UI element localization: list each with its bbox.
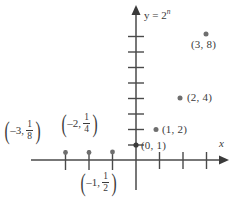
denominator: 2: [102, 184, 109, 194]
data-point-neg3: [63, 150, 68, 155]
numerator: 1: [26, 120, 33, 130]
fraction-1-8: 1 8: [26, 120, 33, 141]
y-axis: [132, 5, 141, 190]
fraction-1-2: 1 2: [102, 172, 109, 193]
numerator: 1: [102, 172, 109, 182]
x-axis-arrowhead: [219, 156, 229, 165]
y-axis-arrowhead: [132, 5, 141, 15]
y-axis-function-label: y = 2n: [144, 10, 170, 21]
point-label-1-2: (1, 2): [162, 124, 187, 135]
denominator: 4: [83, 125, 90, 135]
point-label-3-8: (3, 8): [191, 39, 216, 50]
data-point-one: [154, 127, 159, 132]
left-paren: (: [5, 121, 10, 140]
point-label-0-1: (0, 1): [141, 140, 166, 151]
data-point-neg1: [110, 150, 115, 155]
point-label-2-4: (2, 4): [187, 92, 212, 103]
point-label-neg3-1over8: ( –3, 1 8 ): [3, 120, 42, 141]
denominator: 8: [26, 132, 33, 142]
exponential-function-graph: y = 2n x (0, 1) (1, 2) (2, 4) (3, 8) ( –…: [0, 0, 237, 197]
point-label-neg2-1over4: ( –2, 1 4 ): [60, 113, 99, 134]
x-axis-variable-label: x: [219, 138, 224, 149]
x-axis: [31, 156, 229, 165]
x-coordinate: –1,: [86, 177, 101, 188]
right-paren: ): [112, 173, 117, 192]
left-paren: (: [62, 114, 67, 133]
fraction-1-4: 1 4: [83, 113, 90, 134]
data-point-three: [204, 32, 209, 37]
left-paren: (: [81, 173, 86, 192]
right-paren: ): [93, 114, 98, 133]
data-point-two: [178, 96, 183, 101]
y-axis-label-text: y = 2: [144, 9, 167, 21]
x-coordinate: –3,: [10, 125, 25, 136]
x-coordinate: –2,: [67, 118, 82, 129]
data-point-neg2: [87, 150, 92, 155]
point-label-neg1-1over2: ( –1, 1 2 ): [79, 172, 118, 193]
y-axis-exponent: n: [167, 7, 171, 16]
data-point-zero: [133, 142, 138, 147]
right-paren: ): [36, 121, 41, 140]
numerator: 1: [83, 113, 90, 123]
